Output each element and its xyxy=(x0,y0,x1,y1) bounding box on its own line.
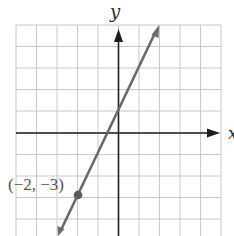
point-label: (−2, −3) xyxy=(8,175,64,194)
point-marker xyxy=(74,191,83,200)
y-axis-label: y xyxy=(109,1,121,22)
x-axis-label: x xyxy=(228,123,234,143)
x-axis-arrow-icon xyxy=(207,129,220,138)
y-axis-arrow-icon xyxy=(114,29,123,42)
plotted-line xyxy=(61,33,155,230)
coordinate-graph: x y (−2, −3) xyxy=(0,0,234,236)
